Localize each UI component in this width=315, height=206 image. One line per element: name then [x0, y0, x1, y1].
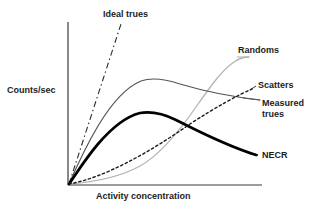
measured-trues-leader — [243, 98, 260, 100]
annotation-ideal-trues: Ideal trues — [103, 9, 148, 20]
y-axis-label: Counts/sec — [7, 85, 56, 96]
series-randoms — [69, 57, 249, 184]
series-measured-trues — [69, 79, 260, 184]
annotation-randoms: Randoms — [238, 45, 279, 56]
necr-leader — [248, 153, 258, 155]
annotation-scatters: Scatters — [258, 80, 294, 91]
chart-figure: Ideal trues Randoms Scatters Measured tr… — [0, 0, 315, 206]
x-axis-label: Activity concentration — [96, 191, 191, 202]
annotation-measured-trues: Measured trues — [262, 98, 314, 120]
scatters-leader — [250, 86, 256, 90]
annotation-necr: NECR — [262, 150, 288, 161]
series-scatters — [69, 89, 252, 184]
